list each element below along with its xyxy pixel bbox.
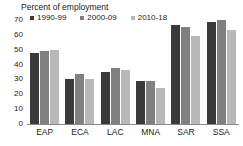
- bar-groups: [27, 20, 239, 124]
- y-axis-tick-label: 50: [14, 46, 23, 54]
- bar[interactable]: [207, 22, 216, 124]
- x-axis-tick-label: EAP: [29, 126, 60, 138]
- bar-group: [101, 20, 130, 124]
- bar-group: [30, 20, 59, 124]
- bar[interactable]: [40, 51, 49, 124]
- bar[interactable]: [156, 88, 165, 124]
- bar[interactable]: [50, 50, 59, 124]
- bar[interactable]: [181, 27, 190, 124]
- y-axis-tick-label: 20: [14, 90, 23, 98]
- legend-label: 2000-09: [87, 13, 116, 22]
- legend-swatch-icon: [80, 16, 84, 20]
- bar[interactable]: [136, 81, 145, 124]
- x-axis-tick-label: SSA: [206, 126, 237, 138]
- bar[interactable]: [146, 81, 155, 124]
- bar-group: [171, 20, 200, 124]
- y-axis-tick-label: 60: [14, 31, 23, 39]
- legend-swatch-icon: [30, 16, 34, 20]
- bar[interactable]: [30, 53, 39, 124]
- bar-group: [207, 20, 236, 124]
- bar[interactable]: [75, 74, 84, 124]
- bar-group: [65, 20, 94, 124]
- bar[interactable]: [111, 68, 120, 124]
- bar-group: [136, 20, 165, 124]
- legend-label: 2010-18: [138, 13, 167, 22]
- legend-item[interactable]: 2010-18: [131, 13, 167, 22]
- x-axis-tick-label: ECA: [64, 126, 95, 138]
- bar[interactable]: [101, 72, 110, 124]
- y-axis-tick-label: 70: [14, 16, 23, 24]
- x-axis-tick-label: LAC: [100, 126, 131, 138]
- plot-area: [27, 20, 239, 124]
- bar[interactable]: [121, 70, 130, 124]
- y-axis-tick-label: 10: [14, 105, 23, 113]
- x-axis-tick-label: SAR: [170, 126, 201, 138]
- legend-item[interactable]: 2000-09: [80, 13, 116, 22]
- bar[interactable]: [217, 20, 226, 124]
- y-axis-tick-label: 0: [19, 120, 23, 128]
- y-axis: 706050403020100: [0, 20, 25, 124]
- x-axis-line: [27, 124, 239, 125]
- chart-title: Percent of employment: [21, 2, 108, 12]
- bar[interactable]: [65, 79, 74, 124]
- bar[interactable]: [85, 79, 94, 124]
- y-axis-tick-label: 30: [14, 75, 23, 83]
- bar[interactable]: [171, 25, 180, 124]
- bar[interactable]: [227, 30, 236, 124]
- legend-item[interactable]: 1990-99: [30, 13, 66, 22]
- x-axis-tick-label: MNA: [135, 126, 166, 138]
- legend-label: 1990-99: [37, 13, 66, 22]
- chart-legend: 1990-992000-092010-18: [30, 13, 167, 22]
- legend-swatch-icon: [131, 16, 135, 20]
- bar-chart: Percent of employment 1990-992000-092010…: [0, 0, 243, 146]
- y-axis-tick-label: 40: [14, 61, 23, 69]
- bar[interactable]: [191, 36, 200, 124]
- x-axis: EAPECALACMNASARSSA: [27, 126, 239, 142]
